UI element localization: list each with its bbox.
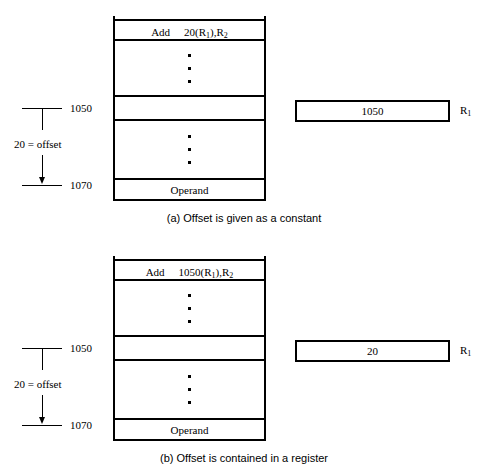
register-name-subscript-b: 1 [467,349,471,358]
vertical-ellipsis-icon-lower-b [113,361,266,418]
offset-bracket-a: 20 = offset 1050 1070 [0,0,113,232]
vertical-ellipsis-icon-upper-b [113,281,266,335]
address-label-bottom-b: 1070 [70,420,92,431]
offset-line-lower-a [42,155,43,178]
memory-row-instruction-a: Add20(R1),R2 [113,19,266,41]
panel-b: Add1050(R1),R2 Operand [0,240,488,465]
memory-row-gap-upper-b [113,281,266,337]
offset-line-upper-a [42,108,43,130]
register-name-subscript-a: 1 [467,109,471,118]
instruction-text-a: Add20(R1),R2 [113,27,266,40]
instruction-dest-subscript-a: 2 [224,31,228,40]
memory-row-operand-a: Operand [113,180,266,201]
memory-column-a: Add20(R1),R2 Operand [113,16,266,200]
memory-row-base-address-b [113,337,266,361]
instruction-operand-suffix-a: ),R [210,26,224,38]
instruction-operand-prefix-a: 20(R [184,26,206,38]
vertical-ellipsis-icon-lower-a [113,121,266,178]
address-label-bottom-a: 1070 [70,180,92,191]
offset-arrowhead-icon-b [39,417,45,424]
register-box-a: 1050 [295,100,450,122]
instruction-operand-prefix-b: 1050(R [179,266,212,278]
offset-tick-bottom-a [22,185,62,186]
offset-bracket-b: 20 = offset 1050 1070 [0,240,113,465]
address-label-top-b: 1050 [70,343,92,354]
instruction-operand-suffix-b: ),R [216,266,230,278]
offset-value-label-a: 20 = offset [14,139,62,150]
panel-caption-b: (b) Offset is contained in a register [0,453,488,464]
offset-tick-bottom-b [22,425,62,426]
offset-line-upper-b [42,348,43,370]
register-name-a: R1 [460,105,471,118]
instruction-dest-subscript-b: 2 [229,271,233,280]
panel-caption-a: (a) Offset is given as a constant [0,213,488,224]
offset-value-label-b: 20 = offset [14,379,62,390]
operand-label-a: Operand [113,185,266,196]
memory-row-operand-b: Operand [113,420,266,441]
register-value-b: 20 [367,346,378,357]
memory-column-b: Add1050(R1),R2 Operand [113,256,266,440]
instruction-text-b: Add1050(R1),R2 [113,267,266,280]
memory-row-gap-lower-b [113,361,266,420]
vertical-ellipsis-icon-upper-a [113,41,266,95]
register-value-a: 1050 [362,106,384,117]
instruction-mnemonic-a: Add [151,26,170,38]
register-box-b: 20 [295,340,450,362]
figure-canvas: Add20(R1),R2 Operand [0,0,488,465]
memory-row-gap-upper-a [113,41,266,97]
operand-label-b: Operand [113,425,266,436]
memory-row-base-address-a [113,97,266,121]
memory-row-gap-lower-a [113,121,266,180]
panel-a: Add20(R1),R2 Operand [0,0,488,232]
register-name-b: R1 [460,345,471,358]
offset-arrowhead-icon-a [39,177,45,184]
offset-line-lower-b [42,395,43,418]
memory-row-instruction-b: Add1050(R1),R2 [113,259,266,281]
instruction-mnemonic-b: Add [146,266,165,278]
address-label-top-a: 1050 [70,103,92,114]
